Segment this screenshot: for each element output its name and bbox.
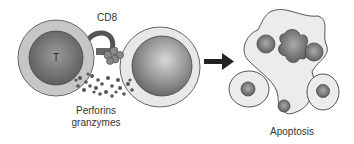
cd8-label: CD8: [92, 12, 122, 23]
t-cell-label: T: [48, 52, 64, 63]
perforins-label: Perforins: [66, 105, 126, 116]
cytotoxic-diagram: [0, 0, 354, 144]
apoptotic-body-right: [307, 74, 339, 110]
apoptosis-label: Apoptosis: [262, 126, 322, 137]
arrow-icon: [204, 53, 234, 70]
apoptotic-body-left: [229, 71, 269, 107]
target-cell: [120, 27, 200, 107]
granzymes-label: granzymes: [62, 117, 130, 128]
